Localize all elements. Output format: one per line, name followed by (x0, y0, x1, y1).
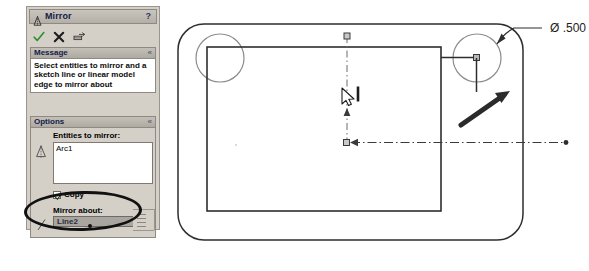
chevron-up-icon[interactable]: « (148, 49, 152, 57)
chevron-up-icon[interactable]: « (148, 118, 152, 126)
options-section-header[interactable]: Options « (30, 116, 156, 128)
ok-check-icon[interactable] (33, 29, 45, 41)
entities-to-mirror-label: Entities to mirror: (53, 132, 120, 140)
stray-point (235, 144, 237, 146)
centerline-endpoint-left (344, 140, 350, 146)
list-item[interactable]: Arc1 (56, 144, 150, 153)
panel-toolbar (30, 27, 159, 42)
mirror-entities-icon (35, 144, 47, 157)
cancel-x-icon[interactable] (53, 29, 65, 41)
message-body: Select entities to mirror and a sketch l… (30, 59, 156, 93)
diameter-dimension-label: Ø .500 (550, 21, 586, 35)
annotation-dot (88, 224, 92, 228)
options-section-title: Options (34, 118, 64, 126)
entities-to-mirror-listbox[interactable]: Arc1 (53, 142, 153, 184)
message-section: Message « Select entities to mirror and … (30, 47, 156, 93)
help-button[interactable]: ? (146, 12, 154, 21)
panel-title-bar: Mirror ? (29, 9, 157, 24)
mirror-icon (33, 12, 42, 22)
centerline-endpoint-top (344, 33, 350, 39)
message-section-title: Message (34, 49, 68, 57)
part-outer-outline (178, 24, 523, 240)
message-section-header[interactable]: Message « (30, 47, 156, 59)
preview-icon[interactable] (73, 29, 85, 41)
centerline-endpoint-right (564, 140, 569, 145)
message-text: Select entities to mirror and a sketch l… (34, 61, 152, 89)
cad-graphics-area[interactable]: Ø .500 (170, 0, 589, 271)
panel-title: Mirror (45, 12, 72, 21)
